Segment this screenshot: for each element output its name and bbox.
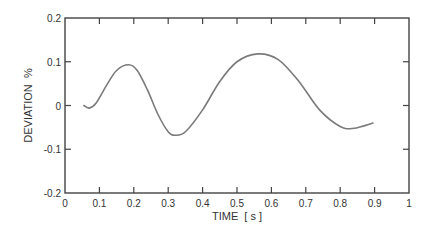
y-axis-ticks: 0.20.10-0.1-0.2 — [44, 13, 409, 199]
x-tick-label: 0.2 — [127, 198, 141, 209]
x-axis-label: TIME [ s ] — [212, 210, 262, 222]
x-tick-label: 0.9 — [368, 198, 382, 209]
x-axis-ticks: 00.10.20.30.40.50.60.70.80.91 — [62, 18, 412, 209]
x-tick-label: 0.7 — [299, 198, 313, 209]
y-axis-label: DEVIATION % — [22, 68, 34, 143]
deviation-chart: 00.10.20.30.40.50.60.70.80.91 0.20.10-0.… — [0, 0, 432, 235]
plot-frame — [65, 18, 409, 193]
x-tick-label: 0.8 — [333, 198, 347, 209]
plot-axes — [65, 18, 409, 193]
x-tick-label: 0 — [62, 198, 68, 209]
x-tick-label: 0.1 — [92, 198, 106, 209]
y-tick-label: 0.1 — [47, 57, 61, 68]
x-tick-label: 1 — [406, 198, 412, 209]
y-tick-label: -0.1 — [44, 144, 62, 155]
x-tick-label: 0.3 — [161, 198, 175, 209]
x-tick-label: 0.5 — [230, 198, 244, 209]
deviation-line — [84, 54, 373, 135]
y-tick-label: 0 — [55, 101, 61, 112]
y-tick-label: 0.2 — [47, 13, 61, 24]
y-tick-label: -0.2 — [44, 188, 62, 199]
x-tick-label: 0.4 — [196, 198, 210, 209]
x-tick-label: 0.6 — [264, 198, 278, 209]
